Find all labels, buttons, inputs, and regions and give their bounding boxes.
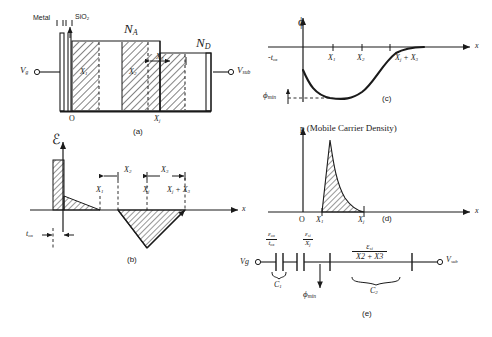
tox-label-b: tox bbox=[26, 230, 33, 239]
x-axis-label-c: x bbox=[475, 42, 479, 50]
panel-e-equivalent-circuit bbox=[255, 253, 442, 288]
panel-d-id: (d) bbox=[382, 215, 392, 223]
substrate-voltage-label-e: Vsub bbox=[446, 256, 458, 265]
x3-band-label-a: X3 bbox=[156, 53, 163, 62]
x1-label-c: X1 bbox=[328, 54, 335, 63]
donor-doping-label: ND bbox=[196, 36, 210, 51]
figure-canvas bbox=[0, 0, 492, 337]
metal-label: Metal bbox=[33, 14, 50, 21]
panel-c-id: (c) bbox=[382, 95, 391, 103]
origin-label-a: O bbox=[69, 115, 75, 123]
c1-label: C1 bbox=[274, 281, 282, 290]
x-axis-label-b: x bbox=[242, 205, 246, 213]
oxide-capacitance-fraction: εox tox bbox=[266, 231, 277, 247]
depletion-capacitance-fraction: εsi X2 + X3 bbox=[352, 243, 387, 262]
xj-plus-x3-label-b: Xj + X3 bbox=[167, 186, 190, 195]
x1-band-label-a: X1 bbox=[80, 68, 87, 77]
x3-dimension-label-b: X3 bbox=[161, 166, 168, 175]
xj-label-b: Xj bbox=[143, 186, 149, 195]
panel-b-electric-field bbox=[30, 142, 238, 248]
x1-label-d: X1 bbox=[316, 216, 323, 225]
x2-band-label-a: X2 bbox=[129, 68, 136, 77]
field-axis-label: ℰ bbox=[52, 133, 60, 147]
phi-min-label-e: ϕmin bbox=[303, 290, 316, 300]
x1-label-b: X1 bbox=[96, 186, 103, 195]
substrate-voltage-label-a: Vsub bbox=[237, 66, 250, 76]
silicon-junction-capacitance-fraction: εsi Xj bbox=[303, 231, 313, 247]
gate-voltage-label-a: Vg bbox=[20, 66, 28, 76]
panel-e-id: (e) bbox=[362, 310, 372, 318]
xj-label-d: Xj bbox=[358, 216, 364, 225]
oxide-label: SiO2 bbox=[75, 13, 89, 21]
panel-a-id: (a) bbox=[133, 128, 143, 136]
junction-label-a: Xj bbox=[154, 115, 160, 124]
panel-d-carrier-density bbox=[268, 128, 470, 217]
c2-label: C2 bbox=[370, 287, 378, 296]
acceptor-doping-label: NA bbox=[124, 22, 138, 37]
x2-dimension-label-b: X2 bbox=[124, 166, 131, 175]
panel-c-potential bbox=[268, 18, 470, 104]
origin-label-d: O bbox=[299, 216, 305, 224]
potential-axis-label: ϕ bbox=[298, 16, 304, 28]
xj-plus-x3-label-c: Xj + X3 bbox=[395, 54, 418, 63]
phi-min-label-c: ϕmin bbox=[263, 91, 276, 101]
x2-label-c: X2 bbox=[357, 54, 364, 63]
gate-voltage-label-e: Vg bbox=[240, 258, 249, 266]
carrier-density-axis-label: p (Mobile Carrier Density) bbox=[300, 124, 397, 133]
neg-tox-label-c: -tox bbox=[268, 54, 278, 63]
panel-b-id: (b) bbox=[127, 256, 137, 264]
x-axis-label-d: x bbox=[475, 207, 479, 215]
